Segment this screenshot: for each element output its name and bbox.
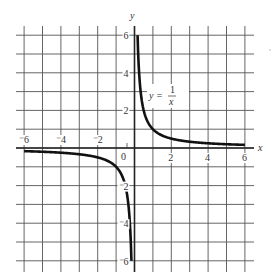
x-tick-label: ⁻6 — [19, 134, 29, 145]
x-tick-label: ⁻2 — [93, 134, 103, 145]
y-tick-label: 6 — [124, 30, 129, 41]
function-label-numerator: 1 — [170, 84, 175, 95]
x-tick-label: 6 — [242, 152, 247, 163]
y-tick-label: 4 — [124, 68, 129, 79]
x-tick-label: ⁻4 — [56, 134, 66, 145]
speck — [269, 49, 271, 51]
y-tick-label: 2 — [124, 105, 129, 116]
x-axis-label: x — [257, 142, 263, 153]
y-tick-label: ⁻6 — [119, 256, 129, 267]
y-axis-label: y — [129, 10, 135, 21]
curve-negative-branch — [24, 151, 131, 261]
function-label-lhs: y = — [148, 90, 163, 101]
origin-label: 0 — [121, 151, 126, 162]
y-tick-label: ⁻2 — [119, 181, 129, 192]
chart: ⁻6⁻4⁻2246642⁻2⁻4⁻6 y x 0 y = 1 x — [0, 0, 276, 278]
y-tick-label: ⁻4 — [119, 218, 129, 229]
x-tick-label: 4 — [205, 152, 210, 163]
x-tick-label: 2 — [168, 152, 173, 163]
function-label-denominator: x — [168, 96, 174, 107]
axes — [16, 26, 254, 272]
